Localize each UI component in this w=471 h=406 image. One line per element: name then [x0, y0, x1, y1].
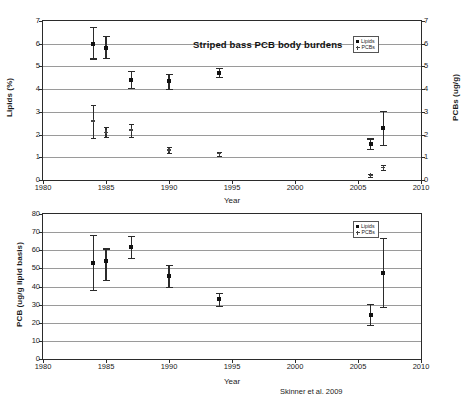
gridline: [43, 323, 421, 324]
source-credit: Skinner et al. 2009: [280, 387, 343, 396]
cross-marker-icon: [129, 128, 133, 132]
error-bar-cap-lower: [128, 88, 135, 89]
error-bar-cap-lower: [90, 290, 97, 291]
square-marker-icon: [356, 225, 359, 228]
error-bar-cap-upper: [128, 71, 135, 72]
error-bar-cap-upper: [367, 304, 374, 305]
y-tick-label: 10: [32, 337, 40, 345]
legend-label-pcbs: PCBs: [362, 45, 375, 50]
y-tick-label: 5: [36, 63, 40, 71]
gridline: [43, 268, 421, 269]
error-bar-cap-upper: [91, 105, 96, 106]
square-marker-icon: [356, 40, 359, 43]
x-tick-label: 1980: [35, 363, 52, 371]
y-tick-label: 80: [32, 210, 40, 218]
legend-item-pcbs-bottom: PCBs: [356, 230, 375, 235]
square-marker-icon: [167, 274, 171, 278]
error-bar: [105, 248, 106, 280]
square-marker-icon: [217, 297, 221, 301]
error-bar-cap-lower: [91, 138, 96, 139]
x-tick-label: 1995: [224, 363, 241, 371]
square-marker-icon: [129, 245, 133, 249]
x-tick-label: 1990: [161, 184, 178, 192]
error-bar-cap-upper: [367, 138, 374, 139]
square-marker-icon: [369, 313, 373, 317]
gridline: [43, 287, 421, 288]
x-tick-label: 2005: [350, 184, 367, 192]
error-bar-cap-lower: [216, 77, 223, 78]
square-marker-icon: [217, 71, 221, 75]
error-bar-cap-lower: [166, 287, 173, 288]
square-marker-icon: [91, 261, 95, 265]
chart-title: Striped bass PCB body burdens: [193, 39, 343, 50]
error-bar-cap-lower: [216, 306, 223, 307]
x-tick-label: 1980: [35, 184, 52, 192]
y-tick-label-right: 6: [424, 40, 428, 48]
error-bar-cap-upper: [90, 27, 97, 28]
cross-marker-icon: [369, 173, 373, 177]
x-tick-label: 1995: [224, 184, 241, 192]
x-tick-label: 2005: [350, 363, 367, 371]
square-marker-icon: [104, 259, 108, 263]
error-bar-cap-upper: [129, 124, 134, 125]
error-bar-cap-upper: [104, 127, 109, 128]
cross-marker-icon: [356, 46, 360, 50]
cross-marker-icon: [104, 130, 108, 134]
error-bar-cap-upper: [90, 235, 97, 236]
y-tick-label-right: 1: [424, 154, 428, 162]
error-bar-cap-lower: [217, 156, 222, 157]
error-bar-cap-lower: [103, 280, 110, 281]
square-marker-icon: [167, 79, 171, 83]
y-tick-label: 60: [32, 247, 40, 255]
cross-marker-icon: [167, 148, 171, 152]
error-bar-cap-lower: [103, 58, 110, 59]
y-tick-label: 40: [32, 283, 40, 291]
y-tick-label: 70: [32, 228, 40, 236]
error-bar-cap-upper: [380, 238, 387, 239]
error-bar-cap-upper: [380, 111, 387, 112]
x-tick-label: 1990: [161, 363, 178, 371]
error-bar-cap-lower: [167, 153, 172, 154]
error-bar-cap-lower: [90, 58, 97, 59]
gridline: [43, 135, 421, 136]
gridline: [43, 66, 421, 67]
y-tick-label: 3: [36, 108, 40, 116]
y-tick-label-right: 4: [424, 85, 428, 93]
cross-marker-icon: [381, 166, 385, 170]
square-marker-icon: [381, 271, 385, 275]
y-tick-label: 50: [32, 265, 40, 273]
error-bar-cap-lower: [380, 307, 387, 308]
error-bar-cap-lower: [104, 137, 109, 138]
cross-marker-icon: [356, 231, 360, 235]
y-tick-label-right: 5: [424, 63, 428, 71]
error-bar-cap-upper: [103, 36, 110, 37]
gridline: [43, 341, 421, 342]
error-bar-cap-upper: [216, 68, 223, 69]
bottom-panel-legend: Lipids PCBs: [353, 221, 379, 238]
error-bar-cap-upper: [216, 293, 223, 294]
legend-label-pcbs-bottom: PCBs: [362, 230, 375, 235]
x-tick-label: 1985: [98, 363, 115, 371]
error-bar-cap-lower: [129, 137, 134, 138]
figure-root: Lipids (%) PCBs (ug/g) 01234567012345671…: [0, 0, 471, 406]
y-tick-label: 20: [32, 319, 40, 327]
gridline: [43, 157, 421, 158]
x-tick-label: 1985: [98, 184, 115, 192]
y-tick-label-right: 2: [424, 131, 428, 139]
gridline: [43, 250, 421, 251]
gridline: [43, 305, 421, 306]
top-panel: Lipids (%) PCBs (ug/g) 01234567012345671…: [0, 0, 471, 200]
y-tick-label-right: 3: [424, 108, 428, 116]
error-bar-cap-lower: [381, 170, 386, 171]
y-tick-label: 30: [32, 301, 40, 309]
x-tick-label: 2000: [287, 363, 304, 371]
error-bar-cap-upper: [128, 236, 135, 237]
x-tick-label: 2000: [287, 184, 304, 192]
error-bar-cap-upper: [103, 248, 110, 249]
top-panel-legend: Lipids PCBs: [353, 36, 379, 53]
y-tick-label: 4: [36, 85, 40, 93]
error-bar-cap-upper: [166, 74, 173, 75]
error-bar-cap-lower: [380, 145, 387, 146]
error-bar-cap-lower: [367, 149, 374, 150]
error-bar-cap-lower: [128, 258, 135, 259]
